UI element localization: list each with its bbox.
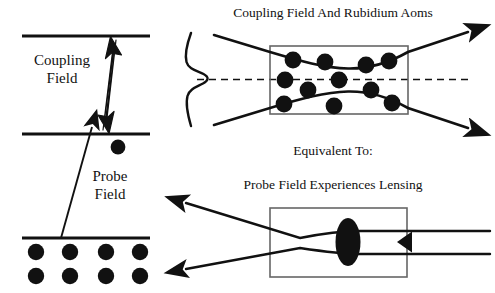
ground-state-atom-dot <box>132 244 148 260</box>
rubidium-atom-dot <box>363 82 380 99</box>
equivalent-to-caption: Equivalent To: <box>293 143 372 158</box>
excited-state-atom-dot <box>111 140 126 155</box>
ground-state-atom-dot <box>62 244 78 260</box>
figure-canvas: Coupling Field Probe Field Coupling Fiel… <box>0 0 495 293</box>
coupling-field-cell-diagram: Coupling Field And Rubidium Aoms <box>186 5 470 128</box>
probe-field-arrow <box>61 127 92 238</box>
ground-state-atom-dot <box>98 244 114 260</box>
coupling-cell-title: Coupling Field And Rubidium Aoms <box>233 5 433 20</box>
rubidium-atom-dot <box>285 52 302 69</box>
gaussian-profile-curve <box>186 33 208 126</box>
ground-state-atom-dot <box>98 268 114 284</box>
rubidium-atom-dot <box>300 82 317 99</box>
rubidium-atom-dot <box>326 98 343 115</box>
rubidium-atom-dot <box>358 57 375 74</box>
ground-state-atom-dot <box>132 268 148 284</box>
rubidium-atom-dot <box>276 96 293 113</box>
coupling-beam-upper-ray <box>214 32 468 69</box>
probe-lensing-title: Probe Field Experiences Lensing <box>244 177 423 192</box>
rubidium-atom-dot <box>277 72 294 89</box>
three-level-energy-diagram: Coupling Field Probe Field <box>22 36 150 284</box>
rubidium-atom-dot <box>381 53 398 70</box>
probe-direction-arrowhead <box>397 232 412 253</box>
coupling-field-label-line2: Field <box>47 70 78 86</box>
probe-field-label-line1: Probe <box>93 168 128 184</box>
coupling-field-label-line1: Coupling <box>34 52 90 68</box>
coupling-field-double-arrow <box>98 37 122 134</box>
ground-state-atom-dot <box>62 268 78 284</box>
rubidium-atom-dot <box>331 72 348 89</box>
probe-lensing-diagram <box>186 203 490 277</box>
rubidium-atom-dot <box>384 95 401 112</box>
ground-state-atom-dot <box>28 268 44 284</box>
probe-field-label-line2: Field <box>95 186 126 202</box>
rubidium-atom-dot <box>317 54 334 71</box>
ground-state-atom-dot <box>28 244 44 260</box>
induced-lens-ellipse <box>336 218 361 266</box>
